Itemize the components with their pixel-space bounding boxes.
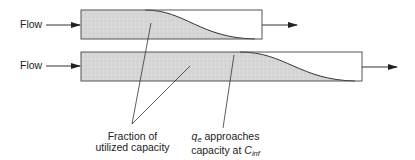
qe-label: qe approaches capacity at Cinf xyxy=(178,131,273,159)
saturated-region-fill xyxy=(81,52,355,81)
short-column xyxy=(81,10,262,39)
qe-label-line2: capacity at Cinf xyxy=(178,145,273,159)
qe-label-line1: qe approaches xyxy=(178,131,273,145)
long-column xyxy=(81,52,362,81)
fraction-label: Fraction of utilized capacity xyxy=(80,131,185,153)
saturated-region-fill xyxy=(81,10,255,39)
inlet-label-2: Flow xyxy=(20,60,42,71)
fraction-label-line2: utilized capacity xyxy=(80,142,185,153)
inlet-label-1: Flow xyxy=(20,19,42,30)
